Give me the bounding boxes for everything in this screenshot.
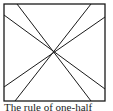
diagonal-line-4 — [4, 17, 105, 87]
figure-caption: The rule of one-half — [4, 101, 113, 111]
crossed-square-diagram — [0, 0, 113, 103]
diagram-figure — [0, 0, 113, 100]
